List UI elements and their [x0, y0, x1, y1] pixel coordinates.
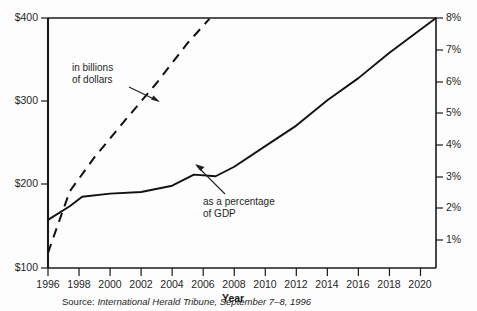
y-axis-right-label-1: 1%	[446, 234, 461, 245]
source-date: September 7–8, 1996	[220, 296, 311, 307]
x-axis-ticks	[48, 268, 420, 276]
series-percentage-of-gdp	[48, 18, 436, 220]
gdp-annotation-arrow	[195, 164, 225, 194]
y-axis-left-label-100: $100	[0, 262, 38, 273]
source-label: Source:	[62, 296, 95, 307]
billions-annotation-line2: of dollars	[72, 74, 113, 86]
billions-annotation: in billions of dollars	[72, 62, 113, 85]
plot-frame	[48, 18, 436, 268]
plot-canvas	[0, 0, 477, 311]
clipped-header-text	[64, 0, 184, 5]
y-axis-right-label-5: 5%	[446, 107, 461, 118]
billions-annotation-arrow	[129, 87, 160, 102]
y-axis-right-label-3: 3%	[446, 171, 461, 182]
series-billions-of-dollars-visible	[48, 19, 209, 253]
y-axis-right-label-4: 4%	[446, 139, 461, 150]
gdp-annotation-line2: of GDP	[203, 208, 275, 220]
x-axis-label-2020: 2020	[400, 279, 440, 290]
y-axis-right-ticks	[436, 18, 443, 240]
chart-figure: $400 $300 $200 $100 8% 7% 6% 5% 4% 3% 2%…	[0, 0, 477, 311]
billions-annotation-line1: in billions	[72, 62, 113, 74]
source-note: Source: International Herald Tribune, Se…	[62, 296, 311, 307]
y-axis-left-label-200: $200	[0, 178, 38, 189]
y-axis-right-label-2: 2%	[446, 202, 461, 213]
y-axis-left-label-300: $300	[0, 95, 38, 106]
source-publication: International Herald Tribune,	[97, 296, 217, 307]
y-axis-right-label-7: 7%	[446, 44, 461, 55]
y-axis-left-label-400: $400	[0, 12, 38, 23]
gdp-annotation-line1: as a percentage	[203, 196, 275, 208]
y-axis-right-label-6: 6%	[446, 76, 461, 87]
y-axis-right-label-8: 8%	[446, 12, 461, 23]
gdp-annotation: as a percentage of GDP	[203, 196, 275, 219]
